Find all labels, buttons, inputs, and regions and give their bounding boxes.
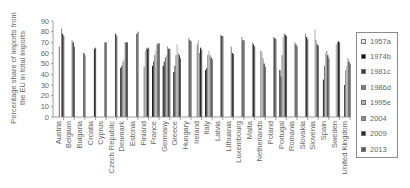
svg-text:50: 50 (41, 59, 49, 68)
y-axis: 0102030405060708090 (41, 17, 53, 122)
legend-swatch (361, 85, 366, 90)
legend-item-1981c: 1981c (361, 66, 390, 76)
legend-label: 1957a (370, 37, 391, 46)
legend: 1957a 1974b 1981c 1986d 1995e 2004 2009 … (356, 32, 398, 158)
legend-item-1995e: 1995e (361, 97, 391, 107)
svg-text:30: 30 (41, 81, 49, 90)
legend-item-2009: 2009 (361, 128, 387, 138)
svg-text:Austria: Austria (54, 120, 63, 144)
legend-label: 1995e (370, 98, 391, 107)
legend-swatch (361, 131, 366, 136)
svg-text:Hungary: Hungary (181, 121, 190, 150)
legend-item-1957a: 1957a (361, 36, 391, 46)
svg-text:70: 70 (41, 38, 49, 47)
legend-label: 2009 (370, 129, 387, 138)
svg-text:Germany: Germany (160, 121, 169, 152)
svg-text:Slovakia: Slovakia (298, 120, 307, 149)
svg-text:Latvia: Latvia (213, 120, 222, 141)
svg-text:0: 0 (45, 113, 49, 122)
legend-label: 1974b (370, 52, 391, 61)
svg-text:Slovenia: Slovenia (308, 120, 317, 150)
svg-text:Spain: Spain (319, 121, 328, 140)
legend-swatch (361, 54, 366, 59)
svg-text:Poland: Poland (266, 121, 275, 144)
svg-text:Finland: Finland (139, 121, 148, 146)
svg-text:Lithuania: Lithuania (224, 120, 233, 151)
legend-swatch (361, 100, 366, 105)
x-axis: AustriaBelgiumBulgariaCroatiaCyprusCzech… (53, 117, 350, 174)
svg-text:Estonia: Estonia (128, 120, 137, 146)
svg-text:Greece: Greece (170, 121, 179, 146)
svg-text:60: 60 (41, 49, 49, 58)
legend-swatch (361, 69, 366, 74)
legend-label: 2004 (370, 114, 387, 123)
svg-text:Cyprus: Cyprus (96, 121, 105, 145)
legend-label: 1986d (370, 83, 391, 92)
svg-text:Netherlands: Netherlands (255, 121, 264, 162)
svg-text:Luxembourg: Luxembourg (234, 121, 243, 163)
bars (59, 28, 351, 117)
svg-text:90: 90 (41, 17, 49, 26)
legend-swatch (361, 116, 366, 121)
svg-text:40: 40 (41, 70, 49, 79)
svg-text:Portugal: Portugal (277, 121, 286, 149)
svg-text:80: 80 (41, 27, 49, 36)
legend-label: 2013 (370, 145, 387, 154)
legend-swatch (361, 147, 366, 152)
legend-item-1974b: 1974b (361, 51, 391, 61)
bar-chart: Percentage share of imports fromthe EU i… (0, 0, 410, 188)
svg-text:Ireland: Ireland (192, 121, 201, 144)
legend-item-1986d: 1986d (361, 82, 391, 92)
y-axis-label: Percentage share of imports fromthe EU i… (9, 12, 27, 123)
svg-text:Italy: Italy (202, 121, 211, 135)
legend-item-2013: 2013 (361, 144, 387, 154)
svg-text:Croatia: Croatia (86, 120, 95, 145)
svg-text:Percentage share of imports fr: Percentage share of imports from (9, 12, 18, 123)
svg-text:Romania: Romania (287, 120, 296, 151)
svg-text:Belgium: Belgium (64, 121, 73, 148)
svg-text:Sweden: Sweden (330, 121, 339, 148)
legend-swatch (361, 39, 366, 44)
svg-text:France: France (149, 121, 158, 144)
svg-text:Czech Republic: Czech Republic (107, 121, 116, 174)
svg-text:Denmark: Denmark (117, 121, 126, 152)
svg-text:10: 10 (41, 102, 49, 111)
svg-text:Malta: Malta (245, 120, 254, 139)
legend-label: 1981c (370, 67, 390, 76)
svg-text:Bulgaria: Bulgaria (75, 120, 84, 148)
svg-text:20: 20 (41, 91, 49, 100)
svg-text:the EU in total imports: the EU in total imports (18, 31, 27, 105)
legend-item-2004: 2004 (361, 113, 387, 123)
svg-text:United Kingdom: United Kingdom (340, 121, 349, 174)
